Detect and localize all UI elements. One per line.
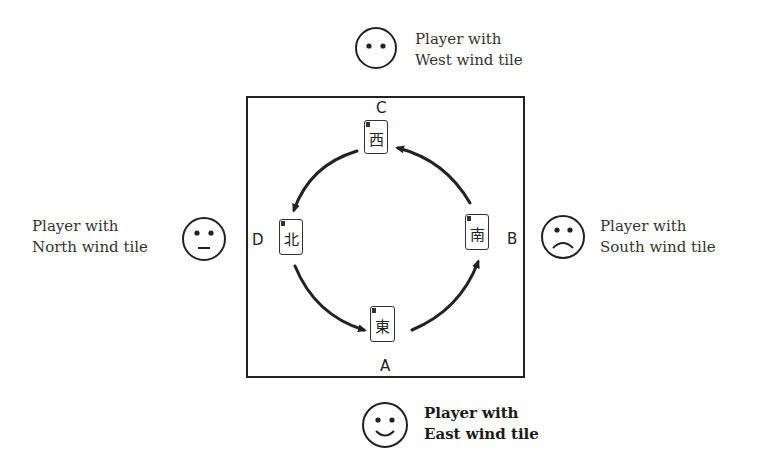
player-west-label: Player with West wind tile: [415, 29, 523, 71]
arrow-a-to-b: [412, 262, 478, 330]
player-north-line2: North wind tile: [32, 237, 148, 258]
player-east-label: Player with East wind tile: [424, 403, 539, 445]
face-west-icon: [356, 28, 396, 68]
tile-corner-mark-icon: [467, 216, 471, 221]
tile-east: 東: [370, 306, 395, 342]
north-wind-glyph: 北: [284, 228, 299, 249]
tile-west: 西: [364, 120, 388, 154]
face-east-icon: [363, 403, 407, 447]
player-west-line2: West wind tile: [415, 50, 523, 71]
player-east-line2: East wind tile: [424, 424, 539, 445]
player-east-line1: Player with: [424, 403, 539, 424]
arrow-c-to-d: [294, 151, 357, 210]
west-wind-glyph: 西: [369, 128, 384, 149]
tile-corner-mark-icon: [372, 308, 376, 313]
south-wind-glyph: 南: [470, 223, 485, 244]
tile-south: 南: [465, 214, 489, 250]
tile-north: 北: [279, 219, 303, 255]
player-north-line1: Player with: [32, 216, 148, 237]
position-a-label: A: [380, 357, 390, 375]
position-d-label: D: [252, 231, 264, 249]
player-south-line1: Player with: [600, 216, 716, 237]
face-south-icon: [542, 216, 584, 258]
east-wind-glyph: 東: [375, 315, 390, 336]
tile-corner-mark-icon: [366, 122, 370, 127]
face-north-icon: [183, 218, 225, 260]
player-south-line2: South wind tile: [600, 237, 716, 258]
rotation-arrows: [294, 148, 478, 330]
player-north-label: Player with North wind tile: [32, 216, 148, 258]
position-c-label: C: [376, 99, 386, 117]
tile-corner-mark-icon: [281, 221, 285, 226]
arrow-d-to-a: [295, 266, 364, 330]
player-west-line1: Player with: [415, 29, 523, 50]
position-b-label: B: [507, 230, 517, 248]
player-south-label: Player with South wind tile: [600, 216, 716, 258]
arrow-b-to-c: [398, 148, 470, 203]
